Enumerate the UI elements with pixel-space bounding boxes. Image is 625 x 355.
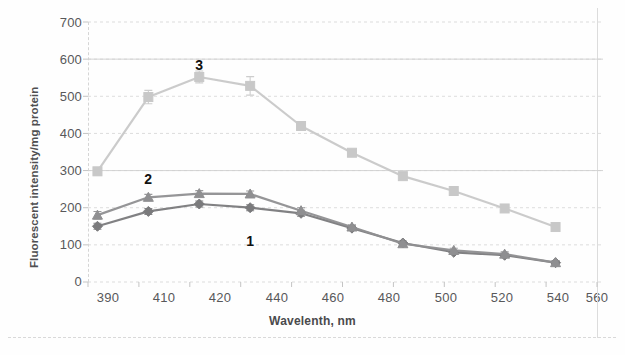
series-label-1: 1 xyxy=(246,233,254,249)
data-point-3-520 xyxy=(449,187,458,196)
data-point-3-540 xyxy=(500,204,509,213)
data-point-3-410 xyxy=(144,93,153,102)
series-label-3: 3 xyxy=(195,57,203,73)
series-1 xyxy=(92,199,560,268)
data-point-3-390 xyxy=(93,167,102,176)
data-point-3-480 xyxy=(347,148,356,157)
data-point-3-460 xyxy=(297,122,306,131)
data-point-3-420 xyxy=(195,72,204,81)
data-point-3-440 xyxy=(246,81,255,90)
series-line-3 xyxy=(97,77,555,227)
series-3 xyxy=(93,71,560,232)
data-point-3-560 xyxy=(551,223,560,232)
series-label-2: 2 xyxy=(144,171,152,187)
series-line-2 xyxy=(97,194,555,263)
chart-plot-area xyxy=(0,0,625,355)
data-point-3-500 xyxy=(398,172,407,181)
figure-container: Fluorescent intensity/mg protein 700 600… xyxy=(0,0,625,355)
